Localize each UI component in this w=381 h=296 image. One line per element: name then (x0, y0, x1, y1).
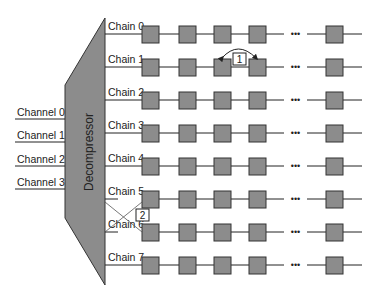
ellipsis: ••• (291, 128, 300, 138)
scan-cell (214, 59, 231, 76)
scan-cell (326, 59, 343, 76)
scan-cell (179, 224, 196, 241)
scan-cell (249, 158, 266, 175)
ellipsis: ••• (291, 260, 300, 270)
chain-row: Chain 3••• (105, 119, 362, 142)
chain-row: Chain 7••• (105, 251, 362, 274)
channel-label: Channel 2 (17, 153, 65, 165)
chain-row: Chain 2••• (105, 86, 362, 109)
scan-cell (214, 92, 231, 109)
chain-label: Chain 5 (108, 185, 144, 197)
scan-chain-diagram: Decompressor Channel 0Channel 1Channel 2… (0, 0, 381, 296)
scan-cell (249, 26, 266, 43)
chain-label: Chain 2 (108, 86, 144, 98)
scan-cell (326, 257, 343, 274)
scan-cell (142, 224, 159, 241)
scan-cell (214, 26, 231, 43)
channel-label: Channel 0 (17, 106, 65, 118)
scan-cell (326, 191, 343, 208)
ellipsis: ••• (291, 62, 300, 72)
scan-cell (179, 257, 196, 274)
scan-cell (249, 224, 266, 241)
chain-label: Chain 0 (108, 20, 144, 32)
chain-row: Chain 0••• (105, 20, 362, 43)
scan-cell (179, 125, 196, 142)
ellipsis: ••• (291, 95, 300, 105)
scan-cell (142, 92, 159, 109)
annotation-1-label: 1 (237, 54, 243, 65)
scan-cell (142, 158, 159, 175)
scan-cell (179, 158, 196, 175)
scan-cell (179, 92, 196, 109)
scan-cell (142, 125, 159, 142)
channel-label: Channel 3 (17, 176, 65, 188)
scan-cell (214, 158, 231, 175)
chain-row: Chain 4••• (105, 152, 362, 175)
ellipsis: ••• (291, 227, 300, 237)
chain-row: Chain 5••• (105, 185, 362, 208)
scan-cell (249, 125, 266, 142)
scan-cell (326, 92, 343, 109)
scan-cell (326, 26, 343, 43)
scan-cell (179, 59, 196, 76)
annotation-2-label: 2 (140, 210, 146, 221)
scan-cell (214, 224, 231, 241)
chain-label: Chain 3 (108, 119, 144, 131)
scan-cell (326, 158, 343, 175)
scan-cell (142, 257, 159, 274)
channels: Channel 0Channel 1Channel 2Channel 3 (15, 106, 65, 189)
channel-label: Channel 1 (17, 129, 65, 141)
scan-cell (249, 257, 266, 274)
scan-cell (214, 257, 231, 274)
chain-label: Chain 1 (108, 53, 144, 65)
scan-cell (214, 191, 231, 208)
scan-cell (142, 26, 159, 43)
ellipsis: ••• (291, 29, 300, 39)
decompressor-label: Decompressor (82, 113, 96, 191)
ellipsis: ••• (291, 194, 300, 204)
scan-cell (249, 59, 266, 76)
scan-cell (179, 26, 196, 43)
scan-cell (142, 191, 159, 208)
ellipsis: ••• (291, 161, 300, 171)
scan-cell (249, 191, 266, 208)
chain-label: Chain 4 (108, 152, 144, 164)
scan-cell (326, 224, 343, 241)
scan-cell (214, 125, 231, 142)
chain-label: Chain 7 (108, 251, 144, 263)
scan-cell (179, 191, 196, 208)
scan-cell (249, 92, 266, 109)
scan-cell (142, 59, 159, 76)
scan-cell (326, 125, 343, 142)
